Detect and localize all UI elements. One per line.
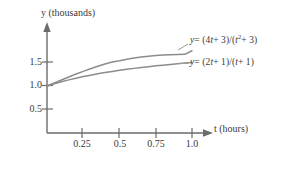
x-tick-label-0-25: 0.25 (67, 139, 97, 149)
series-0-mid: + 3)/( (213, 35, 235, 45)
curve-upper (47, 51, 192, 86)
y-axis (43, 22, 50, 133)
x-axis (47, 129, 213, 136)
series-label-upper: y= (4t+ 3)/(t2+ 3) (190, 36, 257, 46)
x-tick-label-0-5: 0.5 (105, 139, 135, 149)
series-1-rhs: + 1) (238, 57, 254, 67)
series-label-lower: y= (2t+ 1)/(t+ 1) (190, 58, 254, 68)
curve-lower (47, 63, 192, 87)
y-axis-title: y (thousands) (41, 8, 95, 18)
x-tick-label-0-75: 0.75 (141, 139, 171, 149)
series-1-eq: = (2 (194, 57, 210, 67)
chart-figure: y (thousands) t (hours) 1.5 1.0 0.5 0.25… (0, 0, 296, 170)
y-tick-label-0-5: 0.5 (16, 104, 42, 114)
y-tick-label-1-5: 1.5 (16, 57, 42, 67)
leader-line-upper (178, 44, 188, 50)
y-axis-arrowhead (43, 22, 50, 32)
x-axis-title: t (hours) (214, 124, 248, 134)
series-0-rhs: + 3) (241, 35, 257, 45)
x-axis-arrowhead (203, 129, 213, 136)
x-tick-label-1-0: 1.0 (177, 139, 207, 149)
series-0-eq: = (4 (194, 35, 210, 45)
series-1-mid: + 1)/( (213, 57, 235, 67)
y-tick-label-1-0: 1.0 (16, 80, 42, 90)
